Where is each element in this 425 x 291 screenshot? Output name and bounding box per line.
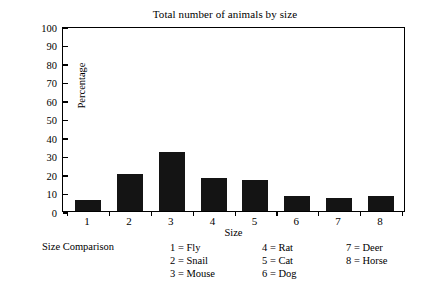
legend-entry: 1 = Fly [170, 241, 215, 254]
legend-column: 4 = Rat5 = Cat6 = Dog [262, 241, 297, 280]
legend-entry: 6 = Dog [262, 267, 297, 280]
legend-entry: 5 = Cat [262, 254, 297, 267]
y-tick-label: 10 [47, 187, 58, 202]
x-tick-label: 3 [150, 214, 192, 228]
y-tick-label: 30 [47, 150, 58, 165]
x-axis-label: Size [62, 227, 405, 238]
x-tick-label: 4 [192, 214, 234, 228]
x-tick-label: 2 [108, 214, 150, 228]
x-tick-label: 1 [66, 214, 108, 228]
bar [284, 196, 310, 211]
y-tick-label: 60 [47, 95, 58, 110]
bar [326, 198, 352, 211]
y-tick-label: 20 [47, 169, 58, 184]
bar [201, 178, 227, 211]
y-tick-label: 40 [47, 132, 58, 147]
chart-title: Total number of animals by size [45, 8, 405, 21]
bar [242, 180, 268, 211]
legend-entry: 8 = Horse [346, 254, 388, 267]
x-tick-label: 8 [359, 214, 401, 228]
legend-column: 7 = Deer8 = Horse [346, 241, 388, 267]
legend-entry: 2 = Snail [170, 254, 215, 267]
x-tick-label: 6 [275, 214, 317, 228]
bar [75, 200, 101, 211]
x-tick-label: 5 [233, 214, 275, 228]
x-tick-mark [402, 211, 403, 216]
bar [117, 174, 143, 211]
bar [368, 196, 394, 211]
legend-entry: 7 = Deer [346, 241, 388, 254]
legend-entry: 3 = Mouse [170, 267, 215, 280]
bar-chart-figure: Total number of animals by size Percenta… [0, 0, 425, 291]
legend-column: 1 = Fly2 = Snail3 = Mouse [170, 241, 215, 280]
y-tick-label: 100 [41, 21, 57, 36]
y-tick-label: 50 [47, 113, 58, 128]
y-tick-label: 0 [52, 206, 57, 221]
legend: Size Comparison 1 = Fly2 = Snail3 = Mous… [0, 241, 425, 291]
x-tick-label: 7 [317, 214, 359, 228]
y-tick-label: 70 [47, 76, 58, 91]
plot-area: Percentage 0102030405060708090100 [62, 27, 405, 212]
bar [159, 152, 185, 211]
bar-series [63, 28, 404, 211]
legend-title: Size Comparison [42, 241, 114, 252]
y-tick-label: 90 [47, 39, 58, 54]
y-tick-label: 80 [47, 58, 58, 73]
legend-entry: 4 = Rat [262, 241, 297, 254]
